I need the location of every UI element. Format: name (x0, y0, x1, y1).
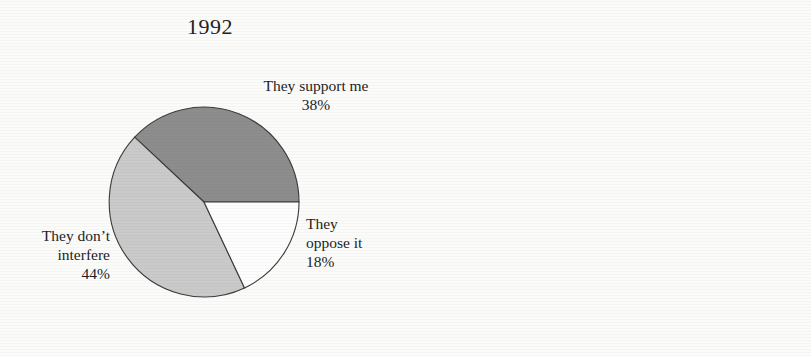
label-oppose-1992: They oppose it 18% (306, 214, 402, 271)
label-interfere-line1-1992: They don’t (42, 227, 110, 244)
label-support-name-1992: They support me (263, 77, 368, 94)
label-oppose-line2-1992: oppose it (306, 233, 402, 252)
chart-title-1992: 1992 (120, 14, 300, 40)
label-support-1992: They support me 38% (232, 76, 400, 114)
pie-chart-figure: 1992 They support me 38% They oppose it … (0, 0, 811, 356)
pie-chart-1992 (100, 98, 310, 308)
label-interfere-line2-1992: interfere (2, 245, 110, 264)
label-oppose-line1-1992: They (306, 215, 338, 232)
label-interfere-pct-1992: 44% (2, 264, 110, 283)
label-interfere-1992: They don’t interfere 44% (2, 226, 110, 283)
label-support-pct-1992: 38% (232, 95, 400, 114)
panel-1996: 1996 They support me 53% They oppose it … (405, 0, 811, 356)
panel-1992: 1992 They support me 38% They oppose it … (0, 0, 405, 356)
label-oppose-pct-1992: 18% (306, 252, 402, 271)
